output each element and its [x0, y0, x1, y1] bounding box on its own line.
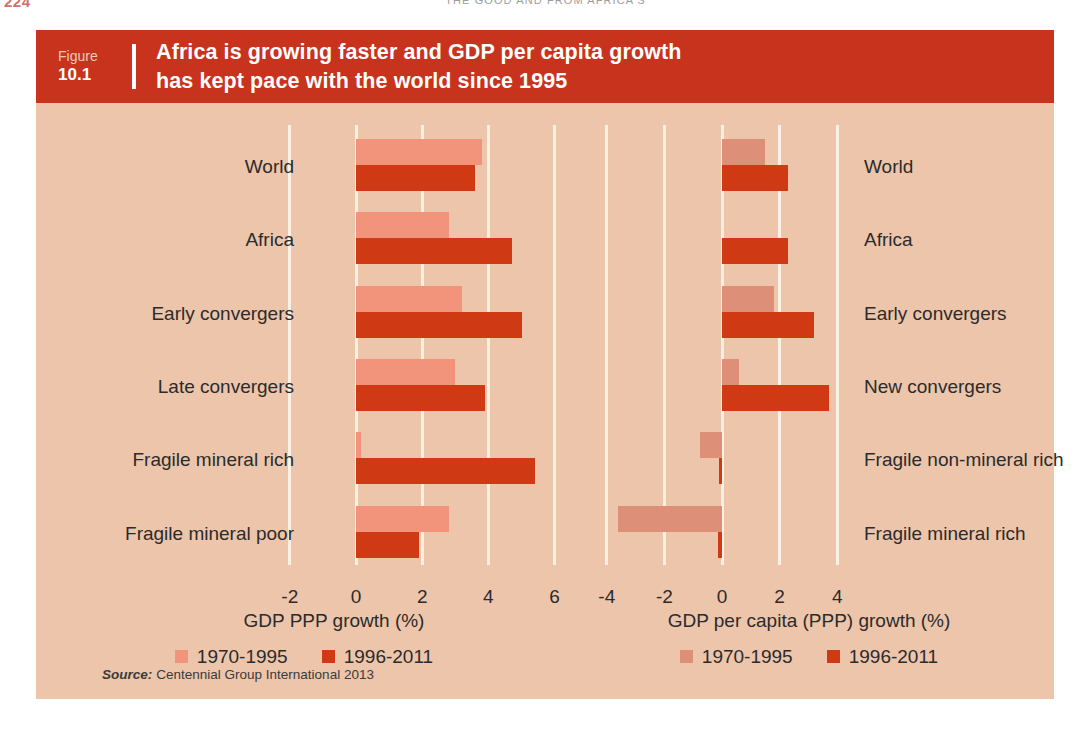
category-label-new-convergers: New convergers — [864, 377, 1001, 396]
category-label-fragile-non-mineral-rich: Fragile non-mineral rich — [864, 450, 1064, 469]
bar-rows-left: WorldAfricaEarly convergersLate converge… — [44, 125, 564, 565]
bar-row: Early convergers — [44, 272, 564, 345]
x-tick-label-2: 2 — [417, 587, 428, 606]
bar-1996-2011-world — [356, 165, 475, 191]
bar-1970-1995-world — [356, 139, 482, 165]
x-tick-label-0: 0 — [351, 587, 362, 606]
bar-1970-1995-world — [722, 139, 765, 165]
bar-1970-1995-fragile-mineral-poor — [356, 506, 449, 532]
bar-row: Fragile mineral rich — [44, 418, 564, 491]
bar-1996-2011-early-convergers — [722, 312, 814, 338]
legend-label-1970-1995: 1970-1995 — [702, 647, 793, 666]
bar-row: Early convergers — [564, 272, 1054, 345]
legend-item-1996-2011: 1996-2011 — [827, 647, 938, 666]
legend-right: 1970-19951996-2011 — [564, 647, 1091, 666]
bar-1970-1995-early-convergers — [356, 286, 462, 312]
x-tick-label-4: 4 — [483, 587, 494, 606]
x-tick-label--2: -2 — [656, 587, 673, 606]
figure-number-block: Figure 10.1 — [36, 48, 132, 86]
figure-number-value: 10.1 — [58, 65, 132, 86]
page-running-header: 224 THE GOOD AND FROM AFRICA'S — [0, 0, 1091, 26]
bar-1996-2011-africa — [356, 238, 512, 264]
bar-row: New convergers — [564, 345, 1054, 418]
x-tick-label-4: 4 — [832, 587, 843, 606]
bar-row: Late convergers — [44, 345, 564, 418]
figure-title-band: Figure 10.1 Africa is growing faster and… — [36, 30, 1054, 103]
bar-row: World — [564, 125, 1054, 198]
bar-row: Africa — [564, 198, 1054, 271]
figure-title-line-1: Africa is growing faster and GDP per cap… — [156, 38, 681, 66]
category-label-fragile-mineral-poor: Fragile mineral poor — [125, 524, 294, 543]
bar-1996-2011-new-convergers — [722, 385, 829, 411]
x-tick-label--4: -4 — [598, 587, 615, 606]
bar-1996-2011-africa — [722, 238, 788, 264]
legend-label-1996-2011: 1996-2011 — [849, 647, 938, 666]
figure-panel: Figure 10.1 Africa is growing faster and… — [36, 30, 1054, 699]
figure-number-word: Figure — [58, 48, 132, 65]
bar-row: Africa — [44, 198, 564, 271]
legend-label-1996-2011: 1996-2011 — [344, 647, 433, 666]
x-tick-label-6: 6 — [549, 587, 560, 606]
bar-row: Fragile mineral poor — [44, 492, 564, 565]
category-label-late-convergers: Late convergers — [158, 377, 294, 396]
chart-gdp-ppp-growth: WorldAfricaEarly convergersLate converge… — [44, 125, 564, 565]
category-label-early-convergers: Early convergers — [151, 304, 294, 323]
bar-row: World — [44, 125, 564, 198]
category-label-fragile-mineral-rich: Fragile mineral rich — [864, 524, 1026, 543]
x-tick-label--2: -2 — [281, 587, 298, 606]
legend-swatch-1970-1995 — [175, 650, 188, 663]
bar-1996-2011-world — [722, 165, 788, 191]
bar-row: Fragile mineral rich — [564, 492, 1054, 565]
bar-1996-2011-late-convergers — [356, 385, 485, 411]
figure-plot-body: WorldAfricaEarly convergersLate converge… — [36, 103, 1054, 699]
bar-1970-1995-early-convergers — [722, 286, 774, 312]
x-tick-label-2: 2 — [774, 587, 785, 606]
bar-1996-2011-fragile-mineral-rich — [718, 532, 722, 558]
legend-swatch-1996-2011 — [827, 650, 840, 663]
x-tick-label-0: 0 — [717, 587, 728, 606]
bar-1970-1995-africa — [356, 212, 449, 238]
bar-1970-1995-late-convergers — [356, 359, 455, 385]
figure-title-divider — [132, 44, 136, 89]
legend-swatch-1996-2011 — [322, 650, 335, 663]
bar-1996-2011-fragile-mineral-poor — [356, 532, 419, 558]
chart-gdp-per-capita-ppp-growth: WorldAfricaEarly convergersNew converger… — [564, 125, 1054, 565]
x-axis-title-right: GDP per capita (PPP) growth (%) — [564, 611, 1064, 630]
bar-1970-1995-new-convergers — [722, 359, 739, 385]
legend-item-1970-1995: 1970-1995 — [175, 647, 288, 666]
bar-1970-1995-fragile-mineral-rich — [618, 506, 722, 532]
source-text: Centennial Group International 2013 — [156, 667, 374, 682]
bar-1970-1995-fragile-non-mineral-rich — [700, 432, 722, 458]
source-label: Source: — [102, 667, 152, 682]
figure-title-line-2: has kept pace with the world since 1995 — [156, 67, 681, 95]
bar-rows-right: WorldAfricaEarly convergersNew converger… — [564, 125, 1054, 565]
legend-swatch-1970-1995 — [680, 650, 693, 663]
bar-1996-2011-fragile-non-mineral-rich — [719, 458, 722, 484]
legend-label-1970-1995: 1970-1995 — [197, 647, 288, 666]
source-note: Source:Centennial Group International 20… — [102, 668, 374, 682]
category-label-fragile-mineral-rich: Fragile mineral rich — [132, 450, 294, 469]
legend-item-1996-2011: 1996-2011 — [322, 647, 433, 666]
category-label-world: World — [864, 157, 913, 176]
category-label-world: World — [245, 157, 294, 176]
legend-item-1970-1995: 1970-1995 — [680, 647, 793, 666]
bar-1996-2011-early-convergers — [356, 312, 522, 338]
category-label-africa: Africa — [245, 230, 294, 249]
bar-row: Fragile non-mineral rich — [564, 418, 1054, 491]
bar-1970-1995-fragile-mineral-rich — [356, 432, 361, 458]
x-axis-title-left: GDP PPP growth (%) — [44, 611, 594, 630]
page-running-head-text: THE GOOD AND FROM AFRICA'S — [0, 0, 1091, 6]
category-label-early-convergers: Early convergers — [864, 304, 1007, 323]
figure-title: Africa is growing faster and GDP per cap… — [156, 38, 681, 95]
category-label-africa: Africa — [864, 230, 913, 249]
bar-1996-2011-fragile-mineral-rich — [356, 458, 535, 484]
